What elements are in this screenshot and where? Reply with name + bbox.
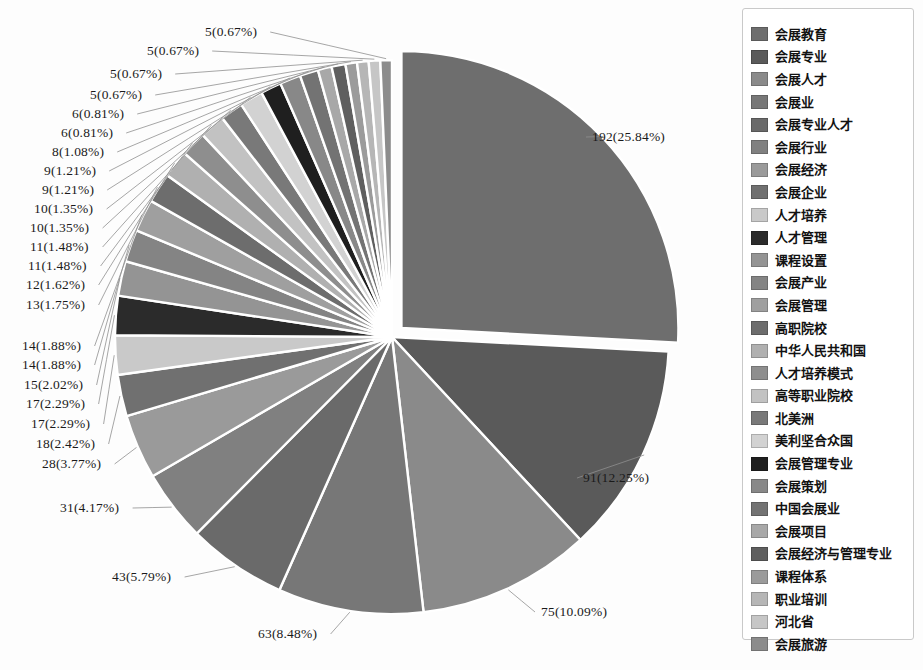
legend-label: 会展策划 — [775, 480, 827, 493]
legend-label: 人才培养 — [775, 209, 827, 222]
legend-item[interactable]: 人才培养 — [751, 204, 913, 227]
legend-label: 会展管理专业 — [775, 457, 853, 470]
legend-item[interactable]: 课程设置 — [751, 249, 913, 272]
legend-swatch — [751, 276, 768, 290]
legend-item[interactable]: 职业培训 — [751, 588, 913, 611]
legend-label: 会展经济 — [775, 163, 827, 176]
legend-item[interactable]: 会展专业人才 — [751, 113, 913, 136]
legend-label: 课程设置 — [775, 254, 827, 267]
legend-item[interactable]: 北美洲 — [751, 407, 913, 430]
legend-swatch — [751, 231, 768, 245]
legend-label: 中国会展业 — [775, 502, 840, 515]
legend-swatch — [751, 592, 768, 606]
legend-swatch — [751, 298, 768, 312]
legend-label: 会展企业 — [775, 186, 827, 199]
legend-label: 职业培训 — [775, 593, 827, 606]
legend-label: 会展专业 — [775, 50, 827, 63]
legend-item[interactable]: 会展专业 — [751, 46, 913, 69]
legend-item[interactable]: 美利坚合众国 — [751, 430, 913, 453]
pie-data-label: 6(0.81%) — [61, 125, 113, 141]
pie-data-label: 17(2.29%) — [31, 416, 90, 432]
legend-rows: 会展教育会展专业会展人才会展业会展专业人才会展行业会展经济会展企业人才培养人才管… — [751, 23, 913, 656]
legend-swatch — [751, 434, 768, 448]
legend-swatch — [751, 411, 768, 425]
leader-line — [185, 567, 235, 577]
leader-line — [212, 51, 374, 59]
legend-item[interactable]: 会展人才 — [751, 68, 913, 91]
legend-item[interactable]: 会展经济 — [751, 159, 913, 182]
legend-item[interactable]: 会展行业 — [751, 136, 913, 159]
legend-label: 高职院校 — [775, 322, 827, 335]
pie-data-label: 18(2.42%) — [36, 436, 95, 452]
legend-item[interactable]: 中华人民共和国 — [751, 339, 913, 362]
legend-item[interactable]: 高职院校 — [751, 317, 913, 340]
pie-chart: 192(25.84%)91(12.25%)75(10.09%)63(8.48%)… — [0, 0, 740, 670]
pie-data-label: 5(0.67%) — [147, 43, 199, 59]
legend-item[interactable]: 会展企业 — [751, 181, 913, 204]
legend-label: 河北省 — [775, 615, 814, 628]
leader-line — [109, 396, 120, 444]
pie-data-label: 10(1.35%) — [30, 220, 89, 236]
legend-item[interactable]: 会展管理专业 — [751, 452, 913, 475]
pie-slice[interactable] — [401, 51, 678, 343]
legend-swatch — [751, 72, 768, 86]
pie-data-label: 6(0.81%) — [72, 106, 124, 122]
legend-label: 会展行业 — [775, 141, 827, 154]
legend-swatch — [751, 253, 768, 267]
pie-data-label: 9(1.21%) — [44, 163, 96, 179]
pie-data-label: 5(0.67%) — [90, 87, 142, 103]
legend-label: 课程体系 — [775, 570, 827, 583]
legend-label: 会展管理 — [775, 299, 827, 312]
legend-item[interactable]: 会展策划 — [751, 475, 913, 498]
pie-data-label: 15(2.02%) — [24, 377, 83, 393]
legend-swatch — [751, 524, 768, 538]
legend-label: 会展业 — [775, 96, 814, 109]
legend-item[interactable]: 高等职业院校 — [751, 385, 913, 408]
leader-line — [133, 507, 172, 508]
legend-item[interactable]: 会展经济与管理专业 — [751, 543, 913, 566]
legend-item[interactable]: 课程体系 — [751, 565, 913, 588]
legend-swatch — [751, 479, 768, 493]
legend-label: 中华人民共和国 — [775, 344, 866, 357]
legend-item[interactable]: 人才管理 — [751, 226, 913, 249]
legend-item[interactable]: 人才培养模式 — [751, 362, 913, 385]
legend-item[interactable]: 会展产业 — [751, 272, 913, 295]
pie-data-label: 14(1.88%) — [22, 338, 81, 354]
legend-label: 北美洲 — [775, 412, 814, 425]
legend-swatch — [751, 118, 768, 132]
legend-swatch — [751, 344, 768, 358]
legend-swatch — [751, 457, 768, 471]
pie-data-label: 28(3.77%) — [42, 456, 101, 472]
pie-data-label: 192(25.84%) — [592, 129, 665, 145]
pie-data-label: 5(0.67%) — [110, 66, 162, 82]
legend-label: 会展经济与管理专业 — [775, 547, 892, 560]
legend-item[interactable]: 中国会展业 — [751, 497, 913, 520]
pie-data-label: 13(1.75%) — [26, 297, 85, 313]
pie-data-label: 9(1.21%) — [42, 182, 94, 198]
legend-swatch — [751, 185, 768, 199]
legend-label: 会展教育 — [775, 28, 827, 41]
legend-item[interactable]: 河北省 — [751, 610, 913, 633]
legend-item[interactable]: 会展业 — [751, 91, 913, 114]
legend-label: 会展产业 — [775, 276, 827, 289]
pie-data-label: 31(4.17%) — [60, 500, 119, 516]
legend-swatch — [751, 570, 768, 584]
pie-data-label: 14(1.88%) — [22, 357, 81, 373]
legend-swatch — [751, 140, 768, 154]
legend-box: 会展教育会展专业会展人才会展业会展专业人才会展行业会展经济会展企业人才培养人才管… — [742, 8, 914, 640]
pie-data-label: 11(1.48%) — [28, 258, 87, 274]
pie-data-label: 75(10.09%) — [541, 604, 607, 620]
legend-item[interactable]: 会展项目 — [751, 520, 913, 543]
legend-swatch — [751, 50, 768, 64]
legend-swatch — [751, 208, 768, 222]
legend-item[interactable]: 会展教育 — [751, 23, 913, 46]
legend-item[interactable]: 会展旅游 — [751, 633, 913, 656]
pie-data-label: 91(12.25%) — [583, 470, 649, 486]
legend-label: 会展旅游 — [775, 638, 827, 651]
legend-label: 会展项目 — [775, 525, 827, 538]
legend-label: 人才培养模式 — [775, 367, 853, 380]
legend-swatch — [751, 321, 768, 335]
legend-item[interactable]: 会展管理 — [751, 294, 913, 317]
legend-swatch — [751, 637, 768, 651]
chart-canvas: 192(25.84%)91(12.25%)75(10.09%)63(8.48%)… — [0, 0, 923, 670]
